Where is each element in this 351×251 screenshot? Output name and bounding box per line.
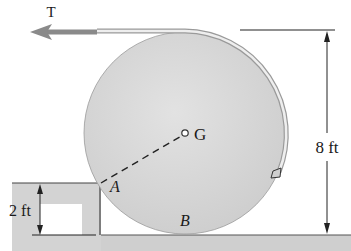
label-tension-t: T — [46, 4, 55, 20]
label-step-height: 2 ft — [9, 202, 31, 219]
label-center-g: G — [194, 125, 206, 144]
center-point-g — [182, 130, 188, 136]
tension-arrow — [30, 24, 97, 40]
label-diameter: 8 ft — [315, 138, 338, 157]
ground — [96, 235, 351, 251]
label-point-b: B — [180, 212, 190, 229]
label-point-a: A — [109, 178, 120, 195]
diagram-canvas: T G A B 8 ft 2 ft — [0, 0, 351, 251]
